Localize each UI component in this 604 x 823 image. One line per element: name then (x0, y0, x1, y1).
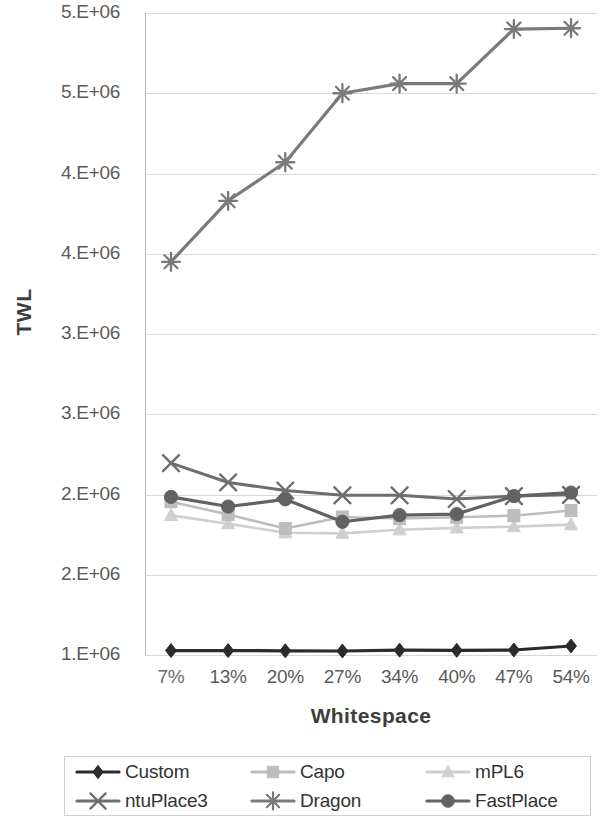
legend-marker-circle-icon (425, 791, 471, 811)
legend-marker-square-icon (250, 762, 296, 782)
legend-marker-triangle-icon (425, 762, 471, 782)
chart-figure: TWL 5.E+065.E+064.E+064.E+063.E+063.E+06… (0, 0, 604, 823)
data-point-marker-asterisk (264, 792, 281, 809)
x-axis-tick-labels: 7%13%20%27%34%40%47%54% (145, 666, 597, 700)
legend-label: mPL6 (475, 761, 524, 783)
y-axis-tick-label: 4.E+06 (28, 242, 120, 264)
data-point-marker-asterisk (562, 19, 580, 37)
y-axis-tick-label: 2.E+06 (28, 483, 120, 505)
legend-marker-diamond-icon (75, 762, 121, 782)
data-point-marker-circle (507, 490, 520, 503)
data-point-marker-circle (564, 486, 577, 499)
data-series-layer (145, 13, 597, 655)
data-point-marker-square (508, 510, 520, 522)
data-point-marker-asterisk (391, 75, 409, 93)
legend-item-custom[interactable]: Custom (65, 757, 240, 786)
legend-label: Capo (300, 761, 345, 783)
data-point-marker-circle (442, 794, 455, 807)
series-dragon (162, 19, 580, 271)
data-point-marker-circle (393, 508, 406, 521)
series-line (171, 28, 571, 262)
data-point-marker-square (565, 505, 577, 517)
data-point-marker-asterisk (448, 75, 466, 93)
data-point-marker-circle (279, 493, 292, 506)
legend-item-fastplace[interactable]: FastPlace (415, 786, 590, 815)
x-axis-tick-label: 54% (536, 666, 604, 688)
y-axis-tick-labels: 5.E+065.E+064.E+064.E+063.E+063.E+062.E+… (28, 0, 120, 680)
data-point-marker-asterisk (219, 192, 237, 210)
data-point-marker-diamond (508, 643, 519, 657)
data-point-marker-asterisk (505, 20, 523, 38)
y-axis-tick-label: 5.E+06 (28, 81, 120, 103)
legend-item-ntuplace3[interactable]: ntuPlace3 (65, 786, 240, 815)
legend-marker-x-icon (75, 791, 121, 811)
legend-label: Dragon (300, 790, 361, 812)
data-point-marker-circle (336, 515, 349, 528)
legend-item-mpl6[interactable]: mPL6 (415, 757, 590, 786)
y-axis-tick-label: 5.E+06 (28, 1, 120, 23)
y-axis-tick-label: 4.E+06 (28, 162, 120, 184)
data-point-marker-square (267, 766, 278, 777)
legend-item-capo[interactable]: Capo (240, 757, 415, 786)
data-point-marker-asterisk (333, 84, 351, 102)
legend-label: Custom (125, 761, 189, 783)
y-axis-tick-label: 3.E+06 (28, 402, 120, 424)
y-axis-tick-label: 3.E+06 (28, 322, 120, 344)
x-axis-title: Whitespace (145, 704, 597, 728)
data-point-marker-asterisk (162, 253, 180, 271)
y-axis-tick-label: 2.E+06 (28, 563, 120, 585)
legend-marker-asterisk-icon (250, 791, 296, 811)
data-point-marker-diamond (566, 639, 577, 653)
data-point-marker-x (163, 455, 179, 471)
plot-area (145, 13, 597, 655)
data-point-marker-square (279, 523, 291, 535)
y-axis-tick-label: 1.E+06 (28, 643, 120, 665)
legend-label: ntuPlace3 (125, 790, 208, 812)
data-point-marker-circle (164, 490, 177, 503)
data-point-marker-diamond (93, 765, 103, 778)
data-point-marker-circle (222, 500, 235, 513)
legend-item-dragon[interactable]: Dragon (240, 786, 415, 815)
data-point-marker-triangle (165, 508, 178, 520)
data-point-marker-circle (450, 507, 463, 520)
data-point-marker-asterisk (276, 153, 294, 171)
chart-legend: CustomCapomPL6ntuPlace3DragonFastPlace (64, 756, 591, 816)
gridline (145, 655, 597, 656)
legend-label: FastPlace (475, 790, 558, 812)
